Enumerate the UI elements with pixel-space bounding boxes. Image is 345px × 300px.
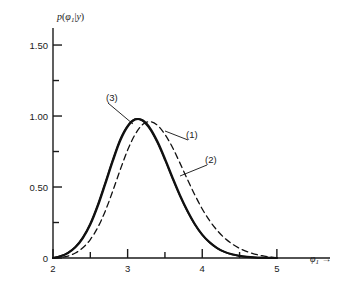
x-tick-label-2: 3 bbox=[125, 263, 130, 274]
x-tick-label-4: 4 bbox=[200, 263, 205, 274]
curve-label-3: (3) bbox=[106, 92, 118, 103]
x-tick-label-6: 5 bbox=[274, 263, 279, 274]
chart-background bbox=[0, 0, 345, 300]
curve-label-2: (2) bbox=[205, 154, 217, 165]
curve-label-1: (1) bbox=[186, 129, 198, 140]
y-tick-label-6: 1.50 bbox=[30, 40, 49, 51]
y-tick-label-4: 1.00 bbox=[30, 111, 49, 122]
posterior-density-chart: 00.501.001.50 2345 (3)(1)(2) p(φ1|y) φ1 … bbox=[0, 0, 345, 300]
chart-figure: 00.501.001.50 2345 (3)(1)(2) p(φ1|y) φ1 … bbox=[0, 0, 345, 300]
y-tick-label-0: 0 bbox=[43, 253, 48, 264]
x-tick-label-0: 2 bbox=[50, 263, 55, 274]
y-tick-label-2: 0.50 bbox=[30, 182, 49, 193]
